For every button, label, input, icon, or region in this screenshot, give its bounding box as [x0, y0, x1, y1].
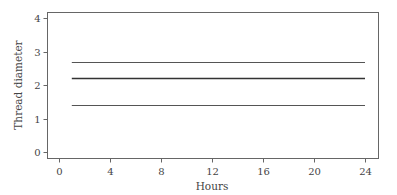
x-tick-label: 4: [107, 166, 113, 177]
series-group: [72, 63, 365, 106]
y-tick-label: 4: [34, 13, 40, 24]
x-tick-label: 16: [257, 166, 270, 177]
x-tick-label: 8: [158, 166, 164, 177]
x-tick-label: 12: [206, 166, 219, 177]
y-tick-label: 3: [34, 47, 40, 58]
x-axis-label: Hours: [196, 180, 229, 192]
y-tick-label: 0: [34, 147, 40, 158]
x-tick-label: 20: [308, 166, 321, 177]
y-tick-label: 1: [34, 114, 40, 125]
y-axis-label: Thread diameter: [12, 39, 24, 129]
plot-frame: [48, 13, 379, 159]
x-tick-label: 0: [56, 166, 62, 177]
chart: 01234 04812162024 Hours Thread diameter: [0, 0, 397, 195]
x-tick-label: 24: [359, 166, 372, 177]
y-axis: 01234: [34, 13, 47, 158]
x-axis: 04812162024: [56, 159, 372, 177]
y-tick-label: 2: [34, 80, 40, 91]
